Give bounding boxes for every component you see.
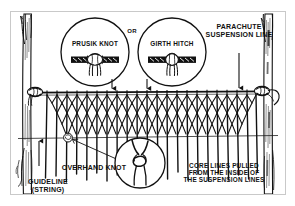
girth-hitch-label: GIRTH HITCH <box>142 40 202 47</box>
illustration-figure: PRUSIK KNOT OR GIRTH HITCH PARACHUTE SUS… <box>0 0 295 206</box>
overhand-knot-label: OVERHAND KNOT <box>61 164 127 172</box>
or-label: OR <box>122 28 142 35</box>
prusik-knot-label: PRUSIK KNOT <box>63 40 127 47</box>
guideline-label: GUIDELINE (STRING) <box>22 178 74 194</box>
parachute-suspension-line-label: PARACHUTE SUSPENSION LINE <box>196 23 282 39</box>
core-lines-label: CORE LINES PULLED FROM THE INSIDE OF THE… <box>171 162 277 184</box>
